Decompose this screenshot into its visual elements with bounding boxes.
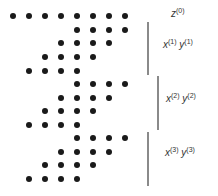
- dot: [58, 162, 64, 168]
- dot-diagram: z(0) x(1) y(1) x(2) y(2) x(3) y(3): [0, 0, 218, 196]
- dot: [106, 40, 112, 46]
- dot: [106, 95, 112, 101]
- dot: [106, 27, 112, 33]
- dot: [90, 135, 96, 141]
- dot: [90, 108, 96, 114]
- dot: [42, 68, 48, 74]
- dot: [42, 162, 48, 168]
- dot: [58, 122, 64, 128]
- dot: [90, 27, 96, 33]
- dot: [90, 162, 96, 168]
- label-z0: z(0): [171, 9, 185, 19]
- dot: [74, 40, 80, 46]
- label-z0-sup: (0): [176, 7, 185, 14]
- dot: [74, 95, 80, 101]
- dot: [74, 162, 80, 168]
- dot: [74, 122, 80, 128]
- dot: [58, 40, 64, 46]
- dot: [58, 176, 64, 182]
- label-g1-x-sup: (1): [168, 38, 177, 45]
- dot: [42, 13, 48, 19]
- group-bracket-line-2: [157, 76, 159, 130]
- dot: [58, 13, 64, 19]
- label-g2-y-sup: (2): [187, 92, 196, 99]
- dot: [106, 81, 112, 87]
- dot: [90, 95, 96, 101]
- dot: [122, 13, 128, 19]
- dot: [74, 13, 80, 19]
- dot: [74, 149, 80, 155]
- dot: [58, 68, 64, 74]
- label-group-3: x(3) y(3): [165, 148, 195, 158]
- dot: [90, 149, 96, 155]
- dot: [74, 135, 80, 141]
- label-group-2: x(2) y(2): [166, 94, 196, 104]
- label-g2-x-sup: (2): [171, 92, 180, 99]
- group-bracket-line-3: [147, 132, 149, 186]
- dot: [74, 176, 80, 182]
- dot: [42, 54, 48, 60]
- dot: [90, 13, 96, 19]
- dot: [26, 68, 32, 74]
- label-group-1: x(1) y(1): [163, 40, 193, 50]
- label-g3-y-sup: (3): [186, 146, 195, 153]
- dot: [122, 135, 128, 141]
- label-g3-x-sup: (3): [170, 146, 179, 153]
- dot: [122, 81, 128, 87]
- dot: [42, 122, 48, 128]
- dot: [10, 13, 16, 19]
- dot: [90, 81, 96, 87]
- dot: [74, 27, 80, 33]
- dot: [74, 54, 80, 60]
- dot: [42, 108, 48, 114]
- dot: [58, 149, 64, 155]
- dot: [122, 27, 128, 33]
- dot: [90, 40, 96, 46]
- dot: [74, 68, 80, 74]
- dot: [74, 108, 80, 114]
- dot: [42, 176, 48, 182]
- dot: [106, 135, 112, 141]
- dot: [58, 54, 64, 60]
- label-g1-y-sup: (1): [184, 38, 193, 45]
- dot: [74, 81, 80, 87]
- dot: [90, 54, 96, 60]
- dot: [58, 95, 64, 101]
- dot: [26, 13, 32, 19]
- dot: [106, 149, 112, 155]
- dot: [26, 176, 32, 182]
- group-bracket-line-1: [147, 22, 149, 75]
- dot: [106, 13, 112, 19]
- dot: [26, 122, 32, 128]
- dot: [58, 108, 64, 114]
